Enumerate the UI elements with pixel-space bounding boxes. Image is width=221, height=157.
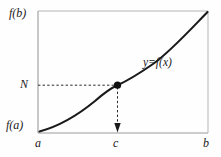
y-axis-bottom-label: f(a): [6, 119, 23, 131]
y-value-label: N: [20, 78, 28, 90]
down-arrowhead-icon: [114, 123, 120, 133]
intersection-point-marker: [114, 82, 121, 89]
x-axis-right-label: b: [203, 137, 209, 149]
x-axis-mid-label: c: [113, 137, 118, 149]
curve-label: y=f(x): [143, 57, 172, 69]
x-axis-left-label: a: [35, 137, 41, 149]
intermediate-value-theorem-figure: f(b) f(a) N a c b y=f(x): [0, 0, 221, 157]
y-axis-top-label: f(b): [9, 7, 26, 19]
function-curve: [40, 12, 208, 132]
axis-box: [38, 11, 208, 133]
figure-canvas: [0, 0, 221, 157]
